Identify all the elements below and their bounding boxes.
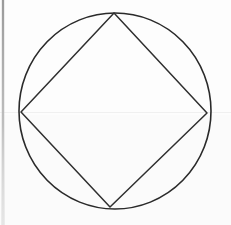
scan-edge-strip [2, 0, 4, 225]
figure-canvas [0, 0, 231, 225]
geometry-figure [0, 0, 231, 225]
